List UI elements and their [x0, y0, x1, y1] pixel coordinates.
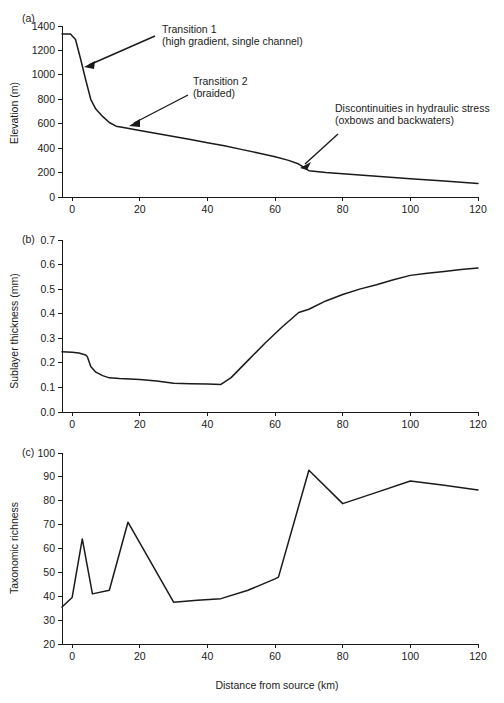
x-tick-label: 0 — [69, 650, 75, 662]
y-tick-label: 0.6 — [40, 258, 55, 270]
y-tick-label: 600 — [37, 117, 55, 129]
y-tick-label: 80 — [43, 494, 55, 506]
annotation-transition-2-line1: Transition 2 — [193, 75, 248, 87]
x-tick-label: 20 — [134, 203, 146, 215]
x-tick-label: 120 — [469, 418, 487, 430]
y-tick-label: 0.5 — [40, 283, 55, 295]
y-tick-label: 1000 — [32, 68, 56, 80]
panel-c: (c) Taxonomic richness 20304050607080901… — [8, 446, 487, 691]
panel-b-ytick-labels: 0.00.10.20.30.40.50.60.7 — [40, 234, 55, 418]
x-tick-label: 120 — [469, 650, 487, 662]
panel-c-ytick-labels: 2030405060708090100 — [37, 447, 55, 650]
x-tick-label: 120 — [469, 203, 487, 215]
x-tick-label: 60 — [269, 418, 281, 430]
annotation-discontinuities-line2: (oxbows and backwaters) — [335, 114, 454, 126]
annotation-transition-1-leader — [89, 36, 155, 65]
panel-b-axes — [58, 240, 478, 416]
figure-container: (a) Elevation (m) 0200400600800100012001… — [0, 0, 504, 703]
x-tick-label: 100 — [402, 418, 420, 430]
x-tick-label: 100 — [402, 650, 420, 662]
panel-b-data-line — [62, 268, 478, 384]
panel-c-data-line — [62, 470, 478, 607]
annotation-transition-2-arrowhead — [129, 119, 140, 127]
panel-b-xtick-labels: 020406080100120 — [69, 418, 487, 430]
y-tick-label: 800 — [37, 93, 55, 105]
x-tick-label: 40 — [202, 418, 214, 430]
annotation-transition-2: Transition 2 (braided) — [129, 75, 248, 127]
y-tick-label: 100 — [37, 447, 55, 459]
panel-a-xtick-labels: 020406080100120 — [69, 203, 487, 215]
annotation-transition-2-leader — [134, 95, 188, 123]
x-tick-label: 80 — [337, 650, 349, 662]
y-tick-label: 1400 — [32, 20, 56, 32]
y-tick-label: 200 — [37, 166, 55, 178]
y-tick-label: 50 — [43, 566, 55, 578]
y-tick-label: 400 — [37, 142, 55, 154]
x-tick-label: 80 — [337, 418, 349, 430]
panel-c-xtick-labels: 020406080100120 — [69, 650, 487, 662]
annotation-transition-1-line2: (high gradient, single channel) — [162, 35, 303, 47]
y-tick-label: 70 — [43, 518, 55, 530]
x-tick-label: 40 — [202, 203, 214, 215]
y-tick-label: 40 — [43, 590, 55, 602]
panel-b: (b) Sublayer thickness (mm) 0.00.10.20.3… — [8, 233, 487, 430]
panel-a-ytick-labels: 0200400600800100012001400 — [32, 20, 56, 203]
x-tick-label: 80 — [337, 203, 349, 215]
annotation-transition-1: Transition 1 (high gradient, single chan… — [84, 23, 303, 69]
panel-a: (a) Elevation (m) 0200400600800100012001… — [8, 12, 490, 215]
panel-b-letter: (b) — [22, 233, 35, 245]
y-tick-label: 0.3 — [40, 332, 55, 344]
annotation-transition-2-line2: (braided) — [193, 87, 235, 99]
annotation-discontinuities: Discontinuities in hydraulic stress (oxb… — [300, 102, 490, 170]
annotation-discontinuities-leader — [305, 134, 338, 164]
y-tick-label: 30 — [43, 614, 55, 626]
annotation-transition-1-line1: Transition 1 — [162, 23, 217, 35]
y-tick-label: 0.4 — [40, 307, 55, 319]
x-tick-label: 0 — [69, 203, 75, 215]
y-tick-label: 90 — [43, 470, 55, 482]
x-tick-label: 0 — [69, 418, 75, 430]
annotation-transition-1-arrowhead — [84, 61, 95, 69]
y-tick-label: 20 — [43, 638, 55, 650]
panel-c-letter: (c) — [22, 446, 34, 458]
panel-c-ylabel: Taxonomic richness — [8, 502, 20, 594]
y-tick-label: 0 — [49, 191, 55, 203]
y-tick-label: 1200 — [32, 44, 56, 56]
figure-xlabel: Distance from source (km) — [215, 679, 338, 691]
y-tick-label: 0.0 — [40, 406, 55, 418]
x-tick-label: 100 — [402, 203, 420, 215]
x-tick-label: 60 — [269, 203, 281, 215]
panel-b-ylabel: Sublayer thickness (mm) — [8, 273, 20, 389]
multi-panel-line-figure: (a) Elevation (m) 0200400600800100012001… — [0, 0, 504, 703]
panel-a-ylabel: Elevation (m) — [8, 82, 20, 144]
annotation-discontinuities-line1: Discontinuities in hydraulic stress — [335, 102, 490, 114]
x-tick-label: 60 — [269, 650, 281, 662]
x-tick-label: 40 — [202, 650, 214, 662]
y-tick-label: 60 — [43, 542, 55, 554]
y-tick-label: 0.1 — [40, 381, 55, 393]
x-tick-label: 20 — [134, 418, 146, 430]
y-tick-label: 0.2 — [40, 356, 55, 368]
x-tick-label: 20 — [134, 650, 146, 662]
y-tick-label: 0.7 — [40, 234, 55, 246]
